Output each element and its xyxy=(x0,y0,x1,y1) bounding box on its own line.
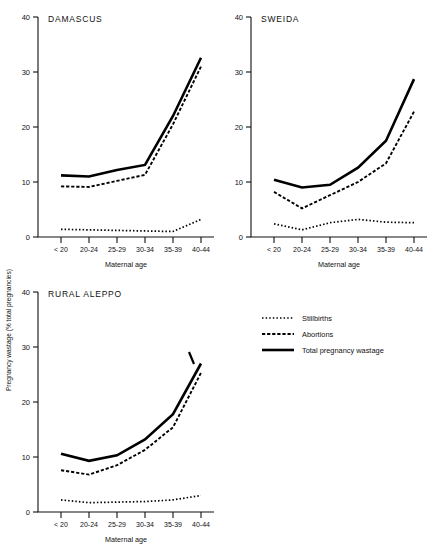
y-tick-20: 20 xyxy=(235,123,243,132)
series-abortions-damascus xyxy=(61,67,201,187)
panel-rural-aleppo: RURAL ALEPPO 40 30 20 10 0 < 20 20-24 25… xyxy=(22,288,214,544)
x-tick-damascus-2: 25-29 xyxy=(108,246,126,253)
scan-artifact-mark xyxy=(189,352,194,364)
series-stillbirths-sweida xyxy=(274,219,414,229)
y-tick-40: 40 xyxy=(235,13,243,22)
y-tick-20: 20 xyxy=(22,123,30,132)
y-tick-40: 40 xyxy=(22,13,30,22)
x-axis-label-sweida: Maternal age xyxy=(318,260,360,269)
x-ticks-sweida: < 20 20-24 25-29 30-34 35-39 40-44 xyxy=(267,237,423,253)
panel-title-rural-aleppo: RURAL ALEPPO xyxy=(48,289,122,299)
series-stillbirths-damascus xyxy=(61,219,201,231)
panel-title-damascus: DAMASCUS xyxy=(48,14,103,24)
y-tick-30: 30 xyxy=(22,343,30,352)
x-tick-sweida-3: 30-34 xyxy=(349,246,367,253)
y-tick-0: 0 xyxy=(239,233,243,242)
legend-label-total-pregnancy-wastage: Total pregnancy wastage xyxy=(302,346,384,355)
panel-sweida: SWEIDA 40 30 20 10 0 < 20 20-24 25-29 30… xyxy=(235,13,427,269)
x-tick-rural-aleppo-1: 20-24 xyxy=(80,521,98,528)
series-group-sweida xyxy=(274,79,414,230)
y-ticks-damascus: 40 30 20 10 0 xyxy=(22,13,38,242)
series-total-damascus xyxy=(61,58,201,177)
panel-damascus: DAMASCUS 40 30 20 10 0 < 20 20-24 25- xyxy=(22,13,214,269)
axis-lines-damascus xyxy=(38,17,214,237)
x-tick-damascus-1: 20-24 xyxy=(80,246,98,253)
x-tick-damascus-5: 40-44 xyxy=(192,246,210,253)
legend: Stillbirths Abortions Total pregnancy wa… xyxy=(262,314,384,355)
x-ticks-rural-aleppo: < 20 20-24 25-29 30-34 35-39 40-44 xyxy=(54,512,210,528)
y-ticks-rural-aleppo: 40 30 20 10 0 xyxy=(22,288,38,517)
x-ticks-damascus: < 20 20-24 25-29 30-34 35-39 40-44 xyxy=(54,237,210,253)
x-tick-sweida-1: 20-24 xyxy=(293,246,311,253)
y-tick-0: 0 xyxy=(26,233,30,242)
y-tick-0: 0 xyxy=(26,508,30,517)
y-tick-20: 20 xyxy=(22,398,30,407)
x-tick-sweida-2: 25-29 xyxy=(321,246,339,253)
x-axis-label-rural-aleppo: Maternal age xyxy=(105,535,147,544)
y-tick-10: 10 xyxy=(235,178,243,187)
x-tick-rural-aleppo-0: < 20 xyxy=(54,521,68,528)
y-tick-40: 40 xyxy=(22,288,30,297)
panel-title-sweida: SWEIDA xyxy=(261,14,299,24)
y-ticks-sweida: 40 30 20 10 0 xyxy=(235,13,251,242)
y-tick-30: 30 xyxy=(235,68,243,77)
y-tick-10: 10 xyxy=(22,178,30,187)
series-total-rural-aleppo xyxy=(61,364,201,461)
figure-y-axis-label: Pregnancy wastage (% total pregnancies) xyxy=(5,269,13,391)
x-tick-rural-aleppo-4: 35-39 xyxy=(164,521,182,528)
pregnancy-wastage-figure: Pregnancy wastage (% total pregnancies) … xyxy=(0,0,447,544)
x-tick-damascus-3: 30-34 xyxy=(136,246,154,253)
x-tick-damascus-4: 35-39 xyxy=(164,246,182,253)
legend-label-stillbirths: Stillbirths xyxy=(302,314,332,323)
x-tick-rural-aleppo-5: 40-44 xyxy=(192,521,210,528)
x-tick-sweida-0: < 20 xyxy=(267,246,281,253)
series-stillbirths-rural-aleppo xyxy=(61,496,201,503)
x-tick-damascus-0: < 20 xyxy=(54,246,68,253)
y-tick-10: 10 xyxy=(22,453,30,462)
x-tick-sweida-5: 40-44 xyxy=(405,246,423,253)
axis-lines-rural-aleppo xyxy=(38,292,214,512)
x-tick-sweida-4: 35-39 xyxy=(377,246,395,253)
y-tick-30: 30 xyxy=(22,68,30,77)
x-axis-label-damascus: Maternal age xyxy=(105,260,147,269)
legend-label-abortions: Abortions xyxy=(302,330,334,339)
series-group-rural-aleppo xyxy=(61,364,201,503)
series-total-sweida xyxy=(274,79,414,187)
x-tick-rural-aleppo-3: 30-34 xyxy=(136,521,154,528)
x-tick-rural-aleppo-2: 25-29 xyxy=(108,521,126,528)
axis-lines-sweida xyxy=(251,17,427,237)
series-group-damascus xyxy=(61,58,201,232)
